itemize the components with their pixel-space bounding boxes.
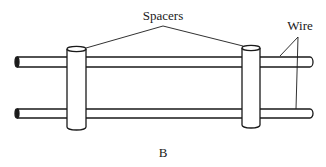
spacers-label: Spacers	[143, 8, 183, 23]
bottom-wire	[15, 109, 313, 118]
wire-leader-top	[280, 37, 298, 56]
right-spacer	[242, 45, 260, 128]
wire-label: Wire	[287, 18, 313, 33]
left-spacer	[67, 46, 86, 130]
spacer-wire-diagram: Spacers Wire B	[0, 0, 326, 167]
caption-label: B	[159, 145, 168, 160]
wire-leader-bottom	[296, 37, 298, 109]
spacers-leader-left	[86, 26, 163, 48]
spacers-leader-right	[163, 26, 243, 46]
top-wire	[15, 57, 313, 67]
